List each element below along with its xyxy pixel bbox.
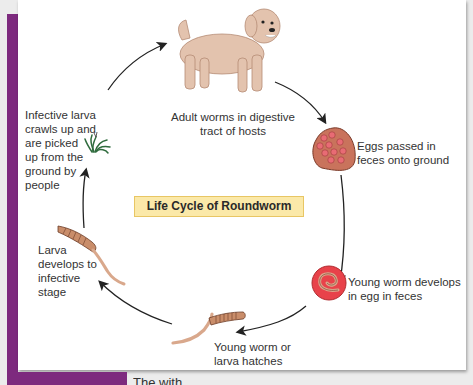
label-line: Young worm develops bbox=[348, 275, 468, 289]
label-line: Young worm or bbox=[214, 340, 304, 354]
label-line: Eggs passed in bbox=[357, 139, 472, 153]
stage-label-eggs: Eggs passed in feces onto ground bbox=[357, 139, 472, 167]
stage-label-young-egg: Young worm develops in egg in feces bbox=[348, 275, 468, 303]
label-line: tract of hosts bbox=[163, 124, 303, 138]
label-line: are picked bbox=[25, 136, 105, 150]
label-line: up from the bbox=[25, 150, 105, 164]
label-line: Adult worms in digestive bbox=[163, 110, 303, 124]
label-line: Infective larva bbox=[25, 108, 105, 122]
label-line: people bbox=[25, 178, 105, 192]
stage-label-develop: Larva develops to infective stage bbox=[38, 243, 108, 299]
stage-label-adult: Adult worms in digestive tract of hosts bbox=[163, 110, 303, 138]
stage-label-infective: Infective larva crawls up and are picked… bbox=[25, 108, 105, 192]
label-line: develops to bbox=[38, 257, 108, 271]
grass-icon bbox=[0, 0, 473, 385]
label-line: stage bbox=[38, 285, 108, 299]
label-line: Larva bbox=[38, 243, 108, 257]
label-line: feces onto ground bbox=[357, 153, 472, 167]
label-line: larva hatches bbox=[214, 354, 304, 368]
label-line: in egg in feces bbox=[348, 289, 468, 303]
label-line: crawls up and bbox=[25, 122, 105, 136]
stage-label-hatch: Young worm or larva hatches bbox=[214, 340, 304, 368]
label-line: ground by bbox=[25, 164, 105, 178]
label-line: infective bbox=[38, 271, 108, 285]
figure-caption: The with bbox=[133, 376, 473, 385]
diagram-title: Life Cycle of Roundworm bbox=[134, 196, 304, 217]
